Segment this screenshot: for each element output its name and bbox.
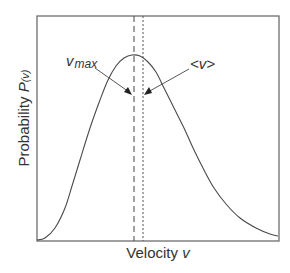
mean-arrowhead-icon [144, 87, 152, 95]
distribution-curve [37, 55, 278, 240]
vmax-label: vmax [66, 52, 98, 71]
y-axis-label: Probability P(v) [15, 69, 32, 166]
mean-pointer-line [148, 69, 189, 92]
mean-label: <v> [190, 55, 215, 72]
maxwell-distribution-chart: vmax <v> Velocity v Probability P(v) [0, 0, 290, 273]
vmax-arrowhead-icon [124, 87, 132, 95]
plot-frame [37, 16, 279, 241]
x-axis-label: Velocity v [126, 244, 191, 261]
